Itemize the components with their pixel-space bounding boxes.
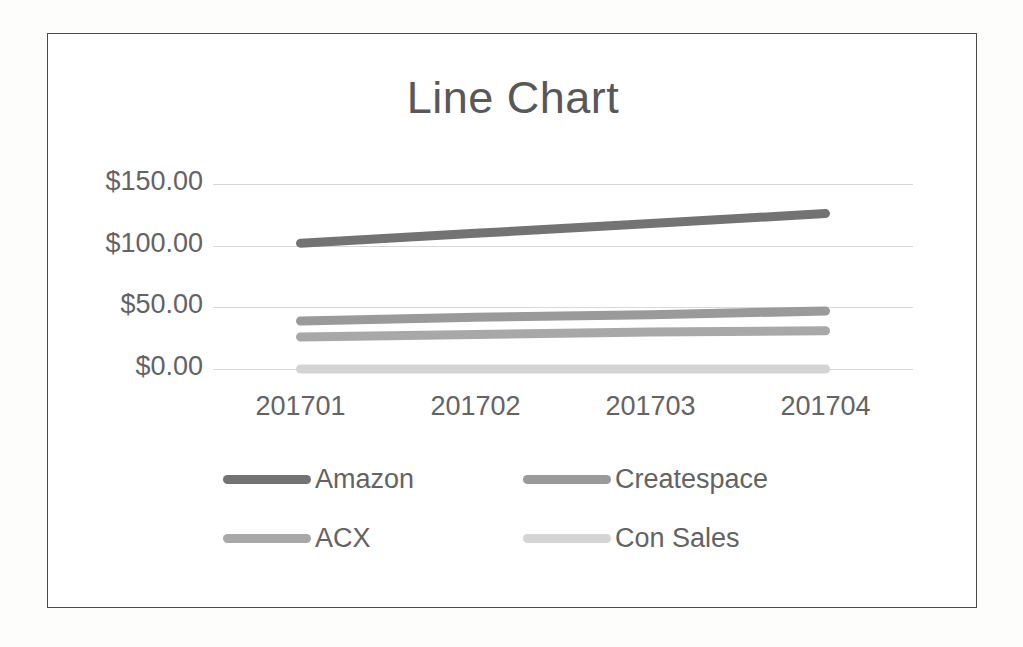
legend-item[interactable]: ACX — [223, 525, 523, 552]
chart-title: Line Chart — [48, 72, 978, 124]
series-line — [301, 331, 826, 337]
chart-legend: AmazonCreatespaceACXCon Sales — [223, 466, 823, 552]
legend-label: Amazon — [315, 466, 414, 493]
legend-swatch-icon — [523, 475, 611, 484]
x-axis-tick-label: 201704 — [738, 391, 913, 431]
chart-frame: Line Chart $0.00$50.00$100.00$150.00 201… — [47, 33, 977, 608]
y-axis-tick-label: $50.00 — [53, 289, 203, 320]
legend-item[interactable]: Con Sales — [523, 525, 823, 552]
legend-label: Con Sales — [615, 525, 740, 552]
legend-label: ACX — [315, 525, 371, 552]
page-canvas: Line Chart $0.00$50.00$100.00$150.00 201… — [0, 0, 1023, 647]
y-axis-tick-label: $100.00 — [53, 228, 203, 259]
legend-item[interactable]: Amazon — [223, 466, 523, 493]
legend-swatch-icon — [523, 534, 611, 543]
plot-area — [213, 184, 913, 369]
x-axis-tick-label: 201702 — [388, 391, 563, 431]
x-axis-tick-label: 201703 — [563, 391, 738, 431]
legend-swatch-icon — [223, 534, 311, 543]
y-axis-tick-label: $0.00 — [53, 351, 203, 382]
series-line — [301, 311, 826, 321]
y-axis-labels: $0.00$50.00$100.00$150.00 — [48, 184, 203, 369]
y-axis-tick-label: $150.00 — [53, 166, 203, 197]
series-lines — [213, 184, 913, 369]
legend-item[interactable]: Createspace — [523, 466, 823, 493]
x-axis-tick-label: 201701 — [213, 391, 388, 431]
legend-label: Createspace — [615, 466, 768, 493]
x-axis-labels: 201701201702201703201704 — [213, 391, 913, 431]
legend-swatch-icon — [223, 475, 311, 484]
series-line — [301, 214, 826, 244]
